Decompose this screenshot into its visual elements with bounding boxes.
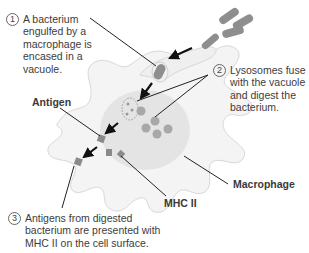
label-antigen: Antigen <box>32 96 71 108</box>
step-2-number: 2 <box>213 64 226 77</box>
step-3-annotation: 3 Antigens from digested bacterium are p… <box>8 212 173 249</box>
step-3-text: Antigens from digested bacterium are pre… <box>8 212 173 249</box>
step-3-number: 3 <box>8 212 21 225</box>
label-mhc-ii: MHC II <box>164 197 197 209</box>
step-2-annotation: 2 Lysosomes fuse with the vacuole and di… <box>213 64 309 114</box>
step-1-number: 1 <box>6 13 19 26</box>
label-macrophage: Macrophage <box>233 178 295 190</box>
step-2-text: Lysosomes fuse with the vacuole and dige… <box>213 64 309 114</box>
step-1-annotation: 1 A bacterium engulfed by a macrophage i… <box>6 13 101 75</box>
bacteria-group <box>200 6 254 50</box>
step-1-text: A bacterium engulfed by a macrophage is … <box>6 13 101 75</box>
